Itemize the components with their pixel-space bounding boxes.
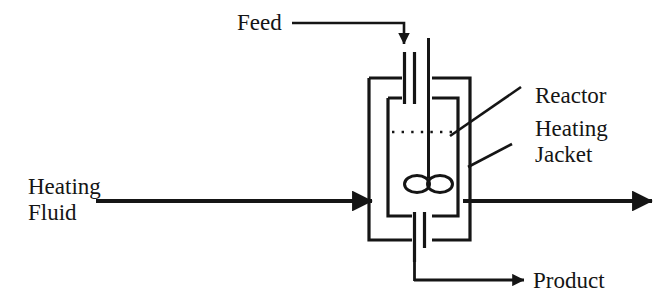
inner-reactor-vessel-outline (388, 94, 458, 221)
diagram-canvas: Feed Reactor Heating Jacket Heating Flui… (0, 0, 669, 306)
impeller-blade-left (405, 176, 430, 193)
heating-jacket-label-line1: Heating (535, 116, 608, 142)
reactor-leader-line (450, 87, 521, 136)
heating-jacket-leader-line (468, 144, 512, 167)
feed-stream (292, 23, 404, 44)
heating-jacket-label-line2: Jacket (535, 142, 592, 168)
product-label: Product (533, 268, 605, 293)
feed-label: Feed (237, 10, 282, 35)
heating-fluid-label-line2: Fluid (28, 200, 77, 226)
impeller-blade-right (428, 176, 453, 193)
reactor-vessel-wall (388, 98, 458, 216)
feed-arrow-line (292, 23, 404, 44)
agitator-impeller (405, 176, 453, 193)
reactor-label: Reactor (535, 83, 607, 108)
heating-fluid-label-line1: Heating (28, 174, 101, 200)
